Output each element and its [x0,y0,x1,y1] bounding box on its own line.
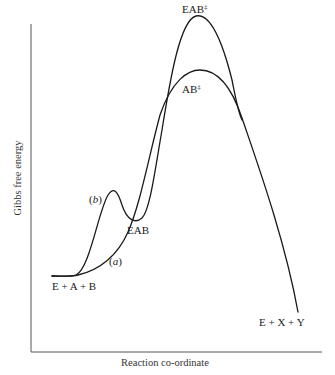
x-axis-label: Reaction co-ordinate [121,357,209,368]
label-intermediate: EAB [127,224,149,236]
label-curve-a: (a) [109,255,122,268]
label-ts-uncatalysed-sup: ‡ [197,83,201,91]
label-ts-enzyme-base: EAB [182,3,204,15]
label-ts-enzyme-sup: ‡ [204,3,208,11]
curve-b-catalysed [52,16,242,276]
label-end-state: E + X + Y [259,316,305,328]
label-start-state: E + A + B [52,280,96,292]
curve-a-uncatalysed [52,70,298,312]
label-ts-uncatalysed: AB‡ [182,83,201,95]
label-ts-enzyme: EAB‡ [182,3,208,15]
label-ts-uncatalysed-base: AB [182,83,197,95]
label-curve-b: (b) [89,193,102,206]
energy-profile-diagram: Gibbs free energy Reaction co-ordinate E… [0,0,335,375]
y-axis-label: Gibbs free energy [12,140,23,216]
